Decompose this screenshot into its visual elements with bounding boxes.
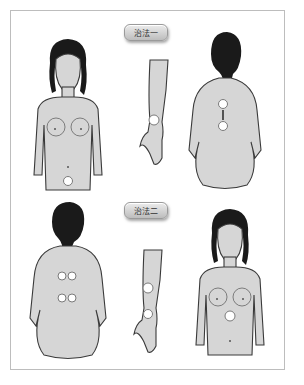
section-2-label-text: 治法二: [134, 205, 158, 216]
acupoint: [144, 310, 153, 319]
section-2-label: 治法二: [124, 202, 168, 219]
acupoint: [143, 283, 153, 293]
back-figure-2: [28, 200, 108, 360]
back-figure-1: [185, 30, 265, 190]
section-1-label-text: 治法一: [134, 27, 158, 38]
acupoint: [149, 115, 159, 125]
acupoint: [68, 294, 76, 302]
acupoint: [58, 272, 66, 280]
forearm-figure-2: [126, 250, 176, 355]
section-1-label: 治法一: [124, 24, 168, 41]
forearm-figure-1: [132, 60, 182, 170]
acupoint: [219, 100, 228, 109]
acupoint: [58, 294, 66, 302]
acupoint: [219, 122, 228, 131]
front-figure-2: [190, 205, 270, 360]
acupoint: [225, 311, 235, 321]
acupoint: [64, 177, 73, 186]
acupoint: [68, 272, 76, 280]
front-figure-1: [28, 35, 108, 190]
